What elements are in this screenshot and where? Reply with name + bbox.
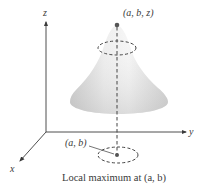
- z-axis: z: [42, 7, 47, 132]
- z-axis-label: z: [42, 7, 47, 18]
- x-axis-label: x: [9, 163, 15, 174]
- peak-point: [115, 23, 120, 28]
- y-axis: y: [46, 126, 194, 137]
- local-maximum-diagram: z y x (a, b, z) (a, b): [0, 0, 202, 192]
- caption: Local maximum at (a, b): [62, 172, 167, 184]
- surface: [70, 25, 168, 114]
- peak-label: (a, b, z): [123, 7, 154, 19]
- point-label: (a, b): [65, 137, 87, 149]
- y-axis-label: y: [188, 126, 194, 137]
- point-leader-line: [89, 146, 114, 154]
- base-point: [115, 153, 119, 157]
- x-axis: x: [9, 132, 46, 174]
